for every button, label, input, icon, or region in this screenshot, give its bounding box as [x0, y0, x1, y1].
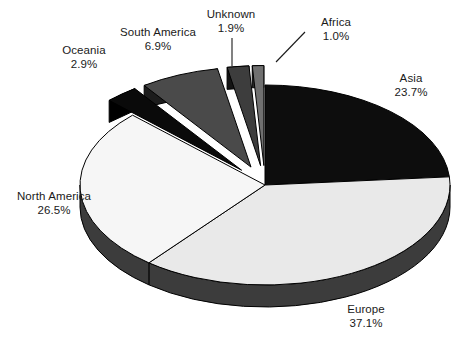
- slice-label-europe-name: Europe: [331, 303, 401, 317]
- slice-label-north-america: North America 26.5%: [2, 190, 106, 217]
- slice-label-north-america-value: 26.5%: [2, 204, 106, 218]
- label-leader-lines: [232, 32, 305, 66]
- slice-label-unknown: Unknown 1.9%: [196, 8, 266, 35]
- slice-label-asia-value: 23.7%: [376, 86, 446, 100]
- slice-label-asia-name: Asia: [376, 72, 446, 86]
- slice-label-africa-name: Africa: [305, 16, 367, 30]
- slice-label-africa: Africa 1.0%: [305, 16, 367, 43]
- slice-label-north-america-name: North America: [2, 190, 106, 204]
- pie-chart-figure: Asia 23.7% Europe 37.1% North America 26…: [0, 0, 460, 343]
- slice-asia[interactable]: [265, 85, 449, 185]
- slice-label-africa-value: 1.0%: [305, 30, 367, 44]
- leader-line-africa: [276, 32, 305, 62]
- slice-label-europe: Europe 37.1%: [331, 303, 401, 330]
- slice-label-europe-value: 37.1%: [331, 317, 401, 331]
- slice-label-unknown-name: Unknown: [196, 8, 266, 22]
- slice-label-south-america-value: 6.9%: [103, 40, 213, 54]
- slice-label-oceania-value: 2.9%: [46, 58, 122, 72]
- slice-label-unknown-value: 1.9%: [196, 22, 266, 36]
- slice-label-asia: Asia 23.7%: [376, 72, 446, 99]
